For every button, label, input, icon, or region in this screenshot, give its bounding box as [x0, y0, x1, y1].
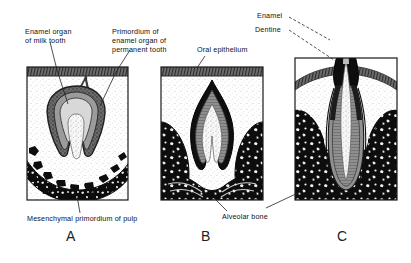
- panel-letter-a: A: [66, 228, 76, 244]
- label-alveolar-bone: Alveolar bone: [222, 212, 268, 221]
- panel-a-illustration: [20, 67, 132, 202]
- label-mesenchymal-primordium-of-pulp: Mesenchymal primordium of pulp: [27, 214, 137, 223]
- tooth-development-figure: Enamel organ of milk tooth Primordium of…: [0, 0, 411, 263]
- label-primordium-permanent-tooth: Primordium of enamel organ of permanent …: [112, 27, 167, 54]
- label-enamel: Enamel: [257, 11, 282, 20]
- panel-letter-b: B: [201, 228, 211, 244]
- panel-b-illustration: [161, 67, 263, 200]
- panel-letter-c: C: [337, 228, 348, 244]
- label-enamel-organ-milk-tooth: Enamel organ of milk tooth: [25, 27, 72, 45]
- label-oral-epithelium: Oral epithelium: [197, 45, 248, 54]
- label-dentine: Dentine: [255, 25, 281, 34]
